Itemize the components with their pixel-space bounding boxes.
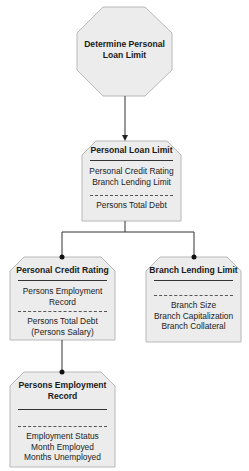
input-item: Record bbox=[10, 297, 115, 308]
node-title: Personal Credit Rating bbox=[10, 265, 115, 276]
data-item: Employment Status bbox=[10, 431, 115, 442]
data-divider bbox=[154, 295, 233, 296]
data-item: Branch Size bbox=[146, 300, 241, 311]
data-item: Persons Total Debt bbox=[10, 316, 115, 327]
root-label-line: Determine Personal bbox=[77, 39, 172, 50]
node-title: Persons Employment bbox=[10, 380, 115, 391]
node-title: Branch Lending Limit bbox=[146, 265, 241, 276]
data-item: Branch Capitalization bbox=[146, 311, 241, 322]
root-node-label: Determine Personal Loan Limit bbox=[77, 39, 172, 61]
data-divider bbox=[18, 426, 107, 427]
data-item: Branch Collateral bbox=[146, 321, 241, 332]
input-item: Persons Employment bbox=[10, 286, 115, 297]
node-branch-lending-limit[interactable]: Branch Lending Limit Branch Size Branch … bbox=[146, 265, 241, 332]
dot-icon bbox=[192, 255, 197, 260]
title-divider bbox=[18, 280, 107, 281]
data-item: Persons Total Debt bbox=[82, 200, 181, 211]
title-divider bbox=[154, 280, 233, 281]
data-item: Month Employed bbox=[10, 442, 115, 453]
node-personal-loan-limit[interactable]: Personal Loan Limit Personal Credit Rati… bbox=[82, 145, 181, 211]
root-label-line: Loan Limit bbox=[77, 50, 172, 61]
dot-icon bbox=[60, 255, 65, 260]
title-divider bbox=[90, 160, 173, 161]
connector-loan-limit-to-children bbox=[60, 221, 197, 260]
input-item: Branch Lending Limit bbox=[82, 177, 181, 188]
data-item: Months Unemployed bbox=[10, 452, 115, 463]
node-persons-employment-record[interactable]: Persons Employment Record Employment Sta… bbox=[10, 380, 115, 463]
data-divider bbox=[90, 195, 173, 196]
input-item: Personal Credit Rating bbox=[82, 166, 181, 177]
connector-root-to-loan-limit bbox=[122, 96, 128, 141]
data-item: (Persons Salary) bbox=[10, 327, 115, 338]
node-title: Personal Loan Limit bbox=[82, 145, 181, 156]
data-divider bbox=[18, 311, 107, 312]
node-personal-credit-rating[interactable]: Personal Credit Rating Persons Employmen… bbox=[10, 265, 115, 337]
title-divider bbox=[18, 409, 107, 410]
connector-credit-rating-to-employment-record bbox=[60, 340, 65, 375]
node-title: Record bbox=[10, 391, 115, 402]
arrowhead-icon bbox=[122, 135, 128, 141]
dot-icon bbox=[60, 370, 65, 375]
